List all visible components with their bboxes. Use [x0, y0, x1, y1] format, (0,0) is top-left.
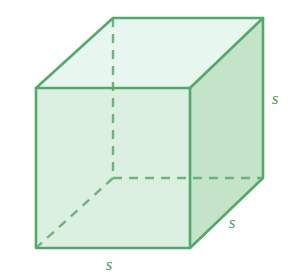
label-right-height: s — [272, 89, 279, 108]
label-width: s — [106, 255, 113, 274]
label-depth: s — [229, 213, 236, 232]
cube-figure: s s s — [0, 0, 292, 277]
cube-diagram-svg: s s s — [0, 0, 292, 277]
